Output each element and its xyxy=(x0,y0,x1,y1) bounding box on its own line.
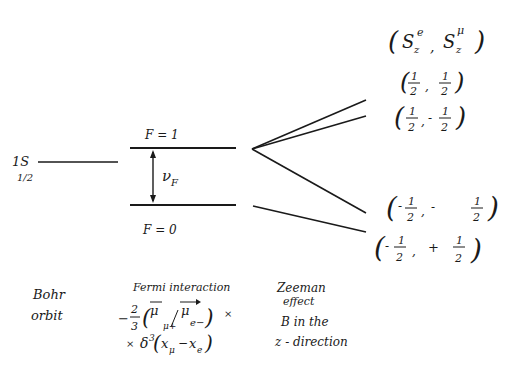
svg-text:1: 1 xyxy=(474,195,481,208)
zeeman-state-1: ( 1 2 , 1 2 ) xyxy=(400,68,464,98)
f0-label: F = 0 xyxy=(142,223,177,237)
svg-text:μ: μ xyxy=(169,345,175,355)
svg-text:,: , xyxy=(425,79,429,93)
caption-zeeman-line4: z - direction xyxy=(274,335,348,349)
svg-text:-: - xyxy=(431,200,435,214)
arrow-head-up-icon xyxy=(150,150,156,158)
bohr-level-label: 1S xyxy=(12,154,29,169)
svg-text:1: 1 xyxy=(442,70,449,83)
svg-text:e: e xyxy=(197,345,202,355)
svg-text:2: 2 xyxy=(440,85,448,98)
zeeman-line-4 xyxy=(253,206,366,232)
svg-text:e−: e− xyxy=(190,317,204,328)
zeeman-state-2: ( 1 2 , - 1 2 ) xyxy=(394,102,466,134)
svg-text:,: , xyxy=(430,39,434,55)
svg-text:S: S xyxy=(402,31,414,52)
zeeman-line-1 xyxy=(252,100,366,149)
fermi-formula: − 2 3 ( μ μ+ μ e− ) × × δ 3 ( x μ − x e … xyxy=(118,299,232,355)
svg-text:+: + xyxy=(428,240,439,255)
svg-text:2: 2 xyxy=(440,121,448,134)
zeeman-state-4: ( - 1 2 , + 1 2 ) xyxy=(374,231,482,266)
zeeman-line-3 xyxy=(252,149,366,213)
svg-text:): ) xyxy=(470,233,482,266)
zeeman-state-3: ( - 1 2 , - 1 2 ) xyxy=(386,191,499,224)
bohr-level-sublabel: 1/2 xyxy=(17,172,33,183)
svg-text:δ: δ xyxy=(140,335,148,351)
arrow-head-down-icon xyxy=(150,195,156,203)
svg-text:−: − xyxy=(178,336,188,350)
svg-text:,: , xyxy=(412,244,416,258)
svg-text:1: 1 xyxy=(398,234,405,247)
svg-text:): ) xyxy=(204,305,214,330)
svg-text:2: 2 xyxy=(409,85,417,98)
svg-text:z: z xyxy=(413,44,420,55)
svg-text:-: - xyxy=(398,199,402,213)
caption-fermi-title: Fermi interaction xyxy=(132,281,230,294)
svg-text:(: ( xyxy=(388,26,399,56)
svg-text:−: − xyxy=(118,311,129,326)
svg-text:x: x xyxy=(161,336,169,351)
svg-text:1: 1 xyxy=(411,70,418,83)
f1-label: F = 1 xyxy=(144,128,179,142)
svg-text:z: z xyxy=(455,44,462,55)
caption-zeeman-line1: Zeeman xyxy=(276,281,326,295)
svg-text:x: x xyxy=(189,336,197,351)
svg-text:,: , xyxy=(421,114,425,128)
svg-text:×: × xyxy=(126,338,134,349)
svg-text:2: 2 xyxy=(406,211,414,224)
svg-text:μ: μ xyxy=(150,303,158,318)
svg-text:1: 1 xyxy=(442,105,449,118)
svg-text:,: , xyxy=(421,204,425,218)
svg-text:μ+: μ+ xyxy=(163,321,176,331)
svg-text:-: - xyxy=(428,111,432,125)
caption-bohr-line1: Bohr xyxy=(32,287,66,302)
svg-text:1: 1 xyxy=(456,234,463,247)
svg-text:3: 3 xyxy=(131,320,138,333)
svg-text:S: S xyxy=(443,31,455,52)
zeeman-line-2 xyxy=(252,116,366,149)
svg-text:): ) xyxy=(455,102,466,132)
svg-text:2: 2 xyxy=(472,211,480,224)
svg-text:μ: μ xyxy=(181,303,189,318)
hyperfine-splitting-sub: F xyxy=(170,177,179,188)
svg-text:(: ( xyxy=(394,102,405,132)
hyperfine-splitting-label: ν xyxy=(162,167,171,185)
svg-text:): ) xyxy=(204,331,213,355)
caption-zeeman-line3: B in the xyxy=(280,315,329,329)
caption-bohr-line2: orbit xyxy=(31,308,64,323)
zeeman-header: ( S z e , S z μ ) xyxy=(388,24,485,56)
svg-text:1: 1 xyxy=(408,195,415,208)
svg-text:2: 2 xyxy=(407,121,415,134)
svg-text:2: 2 xyxy=(130,303,138,316)
svg-text:2: 2 xyxy=(395,251,403,264)
svg-text:): ) xyxy=(454,68,464,96)
caption-zeeman-line2: effect xyxy=(283,295,315,308)
energy-level-diagram: 1S 1/2 F = 1 F = 0 ν F ( S z e , S z μ )… xyxy=(0,0,508,376)
svg-text:e: e xyxy=(417,26,424,39)
svg-text:1: 1 xyxy=(409,105,416,118)
svg-text:-: - xyxy=(385,239,389,253)
svg-text:): ) xyxy=(487,191,499,224)
svg-text:(: ( xyxy=(400,68,410,96)
svg-text:μ: μ xyxy=(457,24,464,37)
svg-text:×: × xyxy=(224,308,232,319)
svg-text:(: ( xyxy=(386,191,398,224)
svg-text:2: 2 xyxy=(454,252,462,265)
svg-text:): ) xyxy=(474,26,485,56)
